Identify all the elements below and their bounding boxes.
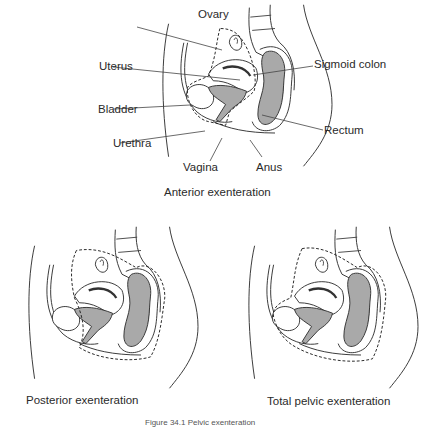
caption-anterior-exenteration: Anterior exenteration <box>164 186 271 198</box>
label-uterus: Uterus <box>99 60 133 72</box>
posterior-exenteration-diagram <box>29 227 198 389</box>
caption-total-pelvic-exenteration: Total pelvic exenteration <box>267 395 390 407</box>
label-anus: Anus <box>256 161 282 173</box>
label-vagina: Vagina <box>183 161 218 173</box>
figure-caption: Figure 34.1 Pelvic exenteration <box>145 418 255 427</box>
label-urethra: Urethra <box>113 137 151 149</box>
anterior-exenteration-diagram <box>163 5 332 167</box>
caption-posterior-exenteration: Posterior exenteration <box>26 394 139 406</box>
label-ovary: Ovary <box>198 8 229 20</box>
label-rectum: Rectum <box>324 124 364 136</box>
total-pelvic-exenteration-diagram <box>249 227 418 389</box>
label-sigmoid-colon: Sigmoid colon <box>314 58 386 70</box>
label-bladder: Bladder <box>98 103 138 115</box>
